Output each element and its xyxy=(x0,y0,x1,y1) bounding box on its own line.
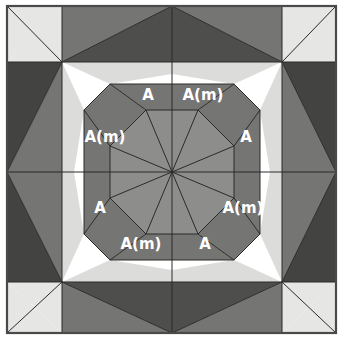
label-top-right: A(m) xyxy=(183,86,224,104)
tiling-diagram: A A(m) A(m) A A A(m) A(m) A xyxy=(0,0,343,339)
figure-root: A A(m) A(m) A A A(m) A(m) A xyxy=(0,0,343,339)
label-right-lower: A(m) xyxy=(223,199,264,217)
label-bottom-right: A xyxy=(199,235,211,253)
label-top-left: A xyxy=(142,86,154,104)
label-bottom-left: A(m) xyxy=(121,235,162,253)
label-left-lower: A xyxy=(94,199,106,217)
label-left-upper: A(m) xyxy=(85,128,126,146)
label-right-upper: A xyxy=(240,128,252,146)
